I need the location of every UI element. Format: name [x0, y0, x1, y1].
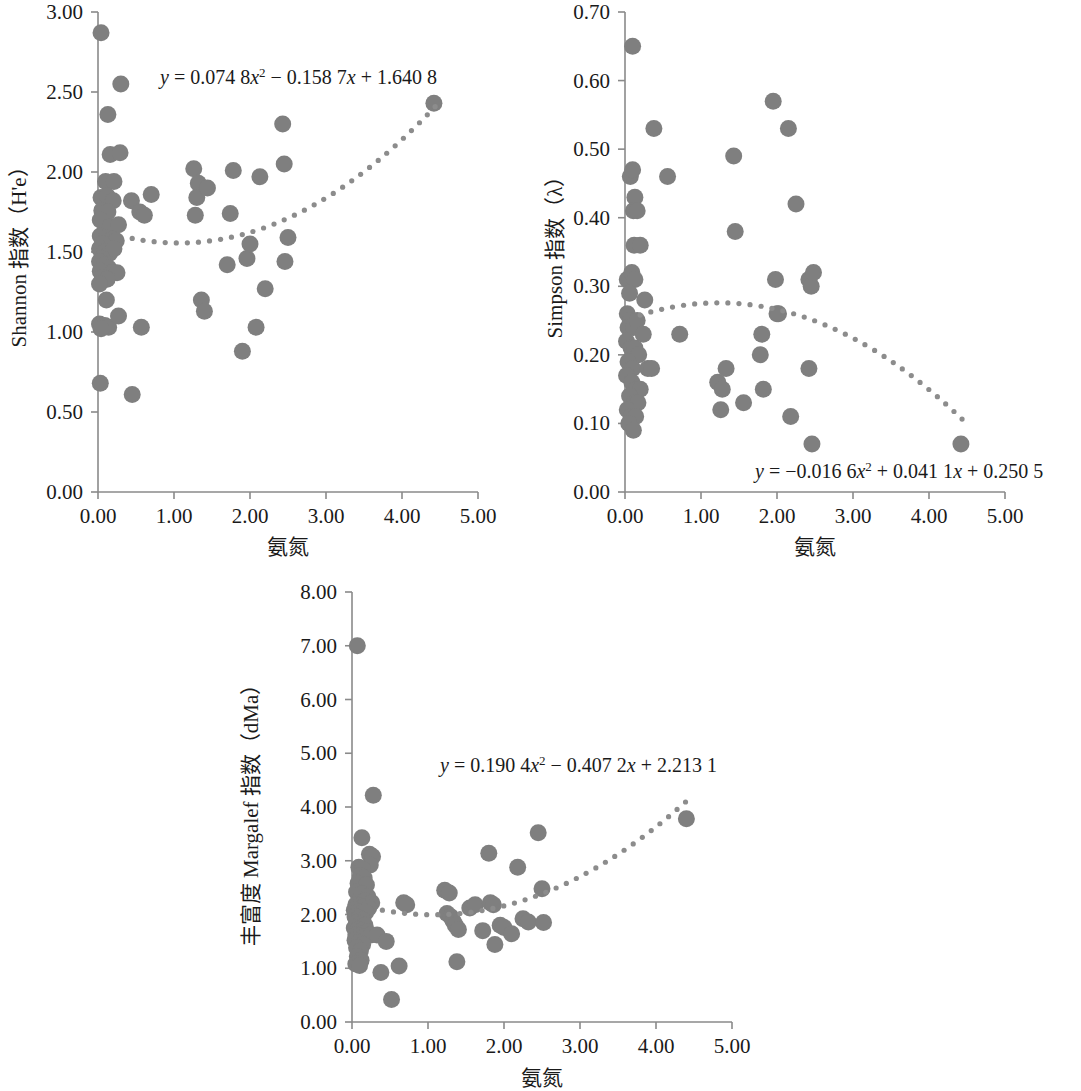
trendline-dot [130, 236, 135, 241]
data-point [448, 953, 465, 970]
data-point [99, 106, 116, 123]
trendline-dot [380, 908, 385, 913]
x-tick-label: 3.00 [562, 1034, 599, 1058]
trendline-dot [433, 104, 438, 109]
x-tick-label: 1.00 [156, 504, 193, 528]
data-point [124, 386, 141, 403]
y-tick-label: 6.00 [300, 688, 337, 712]
trendline-dot [331, 191, 336, 196]
trendline-dot [533, 894, 538, 899]
trendline-dot [612, 854, 617, 859]
trendline-dot [349, 178, 354, 183]
y-tick-label: 1.00 [46, 320, 83, 344]
x-tick-label: 2.00 [759, 504, 796, 528]
x-axis-title: 氨氮 [794, 535, 836, 559]
y-axis-title: Shannon 指数（H'e） [7, 156, 31, 347]
trendline-dot [681, 303, 686, 308]
trendline-dot [648, 309, 653, 314]
x-axis-title: 氨氮 [521, 1066, 563, 1090]
data-point [735, 394, 752, 411]
data-point [788, 196, 805, 213]
y-tick-label: 0.60 [573, 69, 610, 93]
trendline-dot [340, 185, 345, 190]
data-point [480, 845, 497, 862]
data-point [185, 160, 202, 177]
data-point [199, 180, 216, 197]
x-tick-label: 0.00 [80, 504, 117, 528]
data-point [112, 76, 129, 93]
data-point [952, 436, 969, 453]
trendline-dot [822, 322, 827, 327]
x-tick-label: 5.00 [987, 504, 1024, 528]
trendline-dot [543, 890, 548, 895]
trendline-dot [640, 835, 645, 840]
trendline [380, 799, 688, 917]
trendline-dot [736, 301, 741, 306]
trendline-dot [468, 910, 473, 915]
trendline-dot [593, 865, 598, 870]
data-point [624, 161, 641, 178]
x-tick-label: 3.00 [835, 504, 872, 528]
scatter-plot-shannon: 0.000.501.001.502.002.503.000.001.002.00… [0, 0, 540, 560]
trendline-dot [457, 911, 462, 916]
scatter-plot-simpson: 0.000.100.200.300.400.500.600.700.001.00… [540, 0, 1081, 560]
chart-panel-margalef: 0.001.002.003.004.005.006.007.008.000.00… [230, 560, 790, 1091]
trendline-dot [292, 213, 297, 218]
x-tick-label: 5.00 [714, 1034, 751, 1058]
data-point [93, 24, 110, 41]
y-tick-label: 2.00 [300, 903, 337, 927]
trendline-dot [917, 380, 922, 385]
x-tick-label: 4.00 [638, 1034, 675, 1058]
trendline-dot [384, 151, 389, 156]
data-point [714, 381, 731, 398]
trendline-dot [574, 876, 579, 881]
trendline-dot [659, 307, 664, 312]
data-point [98, 292, 115, 309]
trendline-dot [401, 136, 406, 141]
y-tick-label: 0.00 [300, 1010, 337, 1034]
scatter-plot-margalef: 0.001.002.003.004.005.006.007.008.000.00… [230, 560, 790, 1091]
data-point [636, 292, 653, 309]
trendline-dot [376, 158, 381, 163]
data-point [441, 885, 458, 902]
data-point [800, 360, 817, 377]
y-tick-label: 0.00 [573, 480, 610, 504]
data-point [535, 914, 552, 931]
trendline-dot [312, 202, 317, 207]
data-point [257, 280, 274, 297]
trendline-dot [512, 900, 517, 905]
data-point [509, 859, 526, 876]
data-point [92, 375, 109, 392]
data-point [645, 120, 662, 137]
trendline-dot [909, 373, 914, 378]
trendline-dot [670, 304, 675, 309]
data-point [753, 326, 770, 343]
x-tick-label: 0.00 [607, 504, 644, 528]
data-point [625, 422, 642, 439]
data-point [718, 360, 735, 377]
data-point [276, 253, 293, 270]
trendline-dot [490, 906, 495, 911]
trendline-dot [703, 301, 708, 306]
trendline-dot [424, 912, 429, 917]
trendline-dot [391, 909, 396, 914]
y-tick-label: 0.70 [573, 0, 610, 24]
data-point [225, 162, 242, 179]
x-tick-label: 4.00 [384, 504, 421, 528]
trendline-dot [479, 908, 484, 913]
trendline-dot [683, 799, 688, 804]
data-point [632, 237, 649, 254]
data-point [678, 810, 695, 827]
data-point [383, 991, 400, 1008]
data-point [635, 326, 652, 343]
regression-equation: y = 0.190 4x2 − 0.407 2x + 2.213 1 [438, 753, 717, 778]
x-tick-label: 3.00 [308, 504, 345, 528]
data-point [765, 93, 782, 110]
trendline-dot [959, 417, 964, 422]
trendline-dot [666, 814, 671, 819]
x-axis-title: 氨氮 [267, 535, 309, 559]
data-point [378, 933, 395, 950]
trendline-dot [631, 841, 636, 846]
data-point [486, 936, 503, 953]
axis-lines [352, 592, 732, 1022]
